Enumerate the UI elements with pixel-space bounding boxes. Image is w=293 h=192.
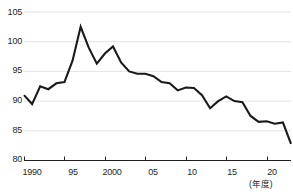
gridlines-group bbox=[24, 12, 291, 131]
x-tick-marks-group bbox=[25, 157, 268, 161]
data-series-line bbox=[24, 27, 291, 144]
chart-container: 105 100 95 90 85 80 1990 95 2000 05 10 1… bbox=[0, 0, 293, 192]
chart-plot-svg bbox=[0, 0, 293, 192]
